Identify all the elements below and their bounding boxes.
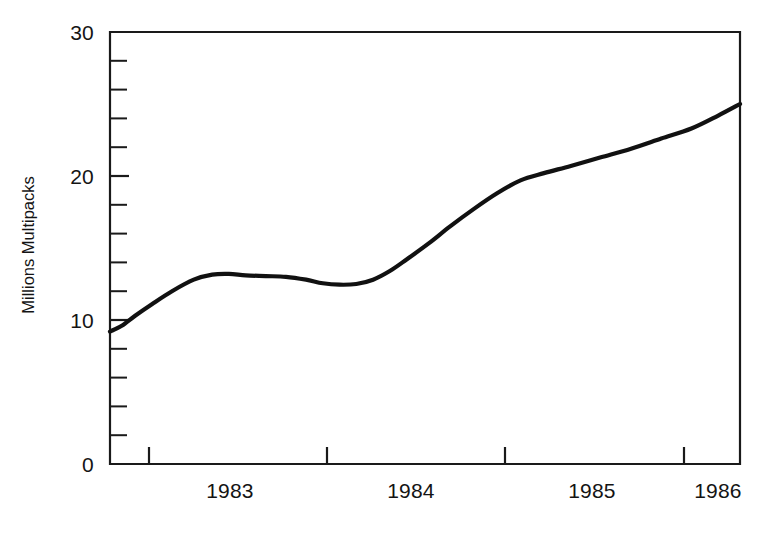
- y-tick-labels: 30 20 10 0: [70, 21, 94, 476]
- data-series-line: [110, 104, 740, 332]
- y-tick-label-20: 20: [70, 165, 94, 188]
- y-tick-label-10: 10: [70, 309, 94, 332]
- y-axis-ticks: [110, 32, 129, 435]
- line-chart: 30 20 10 0 1983 1984 1985 1986 Millions …: [0, 0, 775, 548]
- x-tick-labels: 1983 1984 1985 1986: [206, 479, 742, 502]
- x-tick-label-1986: 1986: [694, 479, 742, 502]
- y-tick-label-30: 30: [70, 21, 94, 44]
- x-tick-label-1983: 1983: [206, 479, 254, 502]
- x-tick-label-1985: 1985: [568, 479, 616, 502]
- x-axis-ticks: [149, 447, 684, 464]
- y-axis-title: Millions Multipacks: [19, 176, 37, 314]
- chart-page: 30 20 10 0 1983 1984 1985 1986 Millions …: [0, 0, 775, 548]
- y-tick-label-0: 0: [82, 453, 94, 476]
- x-tick-label-1984: 1984: [387, 479, 435, 502]
